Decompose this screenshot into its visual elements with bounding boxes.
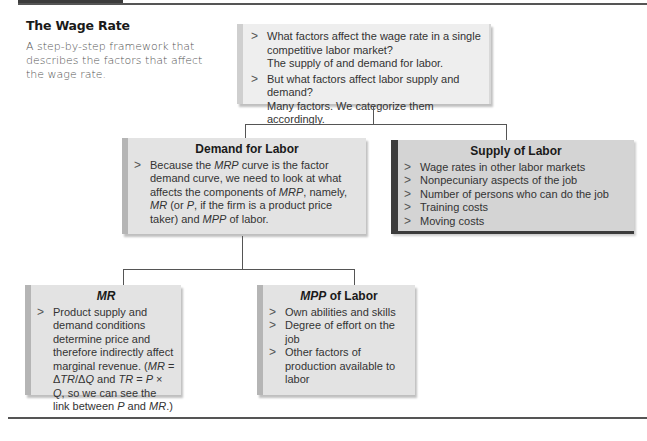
mpp-of-labor-box: MPP of Labor >Own abilities and skills >… xyxy=(257,285,415,395)
section-title: The Wage Rate xyxy=(26,18,130,33)
chevron-right-icon: > xyxy=(269,319,285,333)
list-item: > Because the MRP curve is the factor de… xyxy=(134,159,360,227)
chevron-right-icon: > xyxy=(251,30,267,44)
demand-for-labor-box: Demand for Labor > Because the MRP curve… xyxy=(122,138,366,234)
answer-text: Many factors. We categorize them accordi… xyxy=(267,100,434,126)
box-title: Supply of Labor xyxy=(404,145,628,159)
connector-line xyxy=(123,269,355,270)
item-text: Because the MRP curve is the factor dema… xyxy=(150,159,360,227)
chevron-right-icon: > xyxy=(404,188,420,202)
chevron-right-icon: > xyxy=(404,174,420,188)
chevron-right-icon: > xyxy=(37,306,53,320)
connector-line xyxy=(354,269,355,285)
box-title: MPP of Labor xyxy=(269,290,409,304)
list-item: >Number of persons who can do the job xyxy=(404,188,628,202)
list-item: >Other factors of production available t… xyxy=(269,346,409,387)
connector-line xyxy=(506,124,507,140)
connector-line xyxy=(123,269,124,285)
question-text: What factors affect the wage rate in a s… xyxy=(267,30,481,56)
box-title: MR xyxy=(37,290,175,304)
answer-text: The supply of and demand for labor. xyxy=(267,57,443,69)
connector-line xyxy=(245,124,507,125)
chevron-right-icon: > xyxy=(251,73,267,87)
connector-line xyxy=(242,236,243,269)
list-item: > What factors affect the wage rate in a… xyxy=(251,30,483,71)
chevron-right-icon: > xyxy=(269,306,285,320)
section-description: A step-by-step framework that describes … xyxy=(26,40,206,82)
chevron-right-icon: > xyxy=(134,159,150,173)
bottom-divider xyxy=(8,417,647,419)
connector-line xyxy=(245,124,246,138)
box-title: Demand for Labor xyxy=(134,143,360,157)
top-divider xyxy=(18,3,647,5)
list-item: >Degree of effort on the job xyxy=(269,319,409,346)
connector-line xyxy=(373,106,374,124)
list-item: >Moving costs xyxy=(404,215,628,229)
question-text: But what factors affect labor supply and… xyxy=(267,73,459,99)
chevron-right-icon: > xyxy=(404,201,420,215)
list-item: >Nonpecuniary aspects of the job xyxy=(404,174,628,188)
chevron-right-icon: > xyxy=(404,161,420,175)
list-item: >Own abilities and skills xyxy=(269,306,409,320)
list-item: >Wage rates in other labor markets xyxy=(404,161,628,175)
top-question-box: > What factors affect the wage rate in a… xyxy=(237,24,491,104)
chevron-right-icon: > xyxy=(269,346,285,360)
list-item: > But what factors affect labor supply a… xyxy=(251,73,483,127)
mr-box: MR > Product supply and demand condition… xyxy=(25,285,181,395)
chevron-right-icon: > xyxy=(404,215,420,229)
item-text: Product supply and demand conditions det… xyxy=(53,306,175,414)
list-item: >Training costs xyxy=(404,201,628,215)
supply-of-labor-box: Supply of Labor >Wage rates in other lab… xyxy=(391,140,634,234)
list-item: > Product supply and demand conditions d… xyxy=(37,306,175,414)
